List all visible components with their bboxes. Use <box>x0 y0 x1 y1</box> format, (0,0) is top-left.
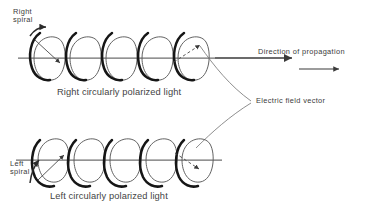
dashed-radius-arrow-icon-bottom <box>175 153 199 169</box>
field-vector-arrow-bottom-left <box>38 155 64 180</box>
helix-front-arcs-bottom <box>32 140 198 187</box>
field-vector-arrow-top-left <box>35 40 60 63</box>
caption-right-circularly-polarized: Right circularly polarized light <box>57 87 181 97</box>
label-electric-field-vector: Electric field vector <box>256 97 325 105</box>
label-left-spiral: Left spiral <box>10 160 30 177</box>
caption-left-circularly-polarized: Left circularly polarized light <box>50 191 168 201</box>
leader-line-icon-top <box>200 46 251 101</box>
left-circular-helix <box>16 139 222 187</box>
leader-line-icon-bottom <box>196 103 251 148</box>
label-right-spiral: Right spiral <box>13 8 33 25</box>
label-direction-of-propagation: Direction of propagation <box>258 48 345 56</box>
figure-circular-polarization: Right spiral Left spiral Direction of pr… <box>0 0 366 211</box>
right-circular-helix <box>18 27 215 80</box>
diagram-canvas <box>0 0 366 211</box>
